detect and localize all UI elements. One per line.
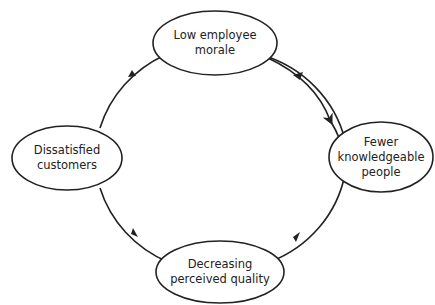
node-decreasing-perceived-quality: Decreasing perceived quality	[170, 257, 270, 287]
node-label-line: Dissatisfied	[34, 143, 100, 158]
arc-right-bottom	[270, 174, 345, 262]
arrowhead-icon	[131, 228, 138, 237]
arrow-top-to-right	[268, 58, 340, 140]
node-label-line: knowledgeable	[338, 150, 425, 165]
node-label-line: Low employee	[173, 28, 256, 43]
arrowhead-icon	[293, 232, 300, 242]
cycle-diagram: Low employee morale Fewer knowledgeable …	[0, 0, 435, 305]
node-low-employee-morale: Low employee morale	[173, 28, 256, 58]
node-label-line: Decreasing	[170, 257, 270, 272]
node-label-line: Fewer	[338, 135, 425, 150]
node-dissatisfied-customers: Dissatisfied customers	[34, 143, 100, 173]
node-label-line: perceived quality	[170, 272, 270, 287]
node-label-line: customers	[34, 158, 100, 173]
node-label-line: people	[338, 165, 425, 180]
arc-bottom-left	[100, 188, 168, 262]
node-label-line: morale	[173, 43, 256, 58]
node-fewer-knowledgeable-people: Fewer knowledgeable people	[338, 135, 425, 180]
arc-left-top	[100, 55, 165, 128]
arc-top-right	[262, 55, 345, 140]
